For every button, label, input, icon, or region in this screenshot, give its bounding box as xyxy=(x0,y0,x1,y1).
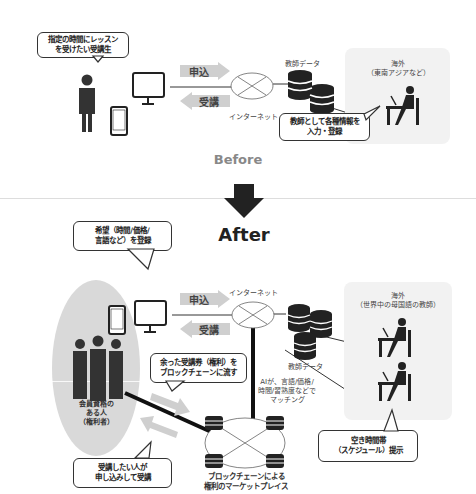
student-bubble: 指定の時間にレッスン を受けたい受講生 xyxy=(37,32,129,58)
bubble-tail-icon xyxy=(135,438,165,460)
down-arrow-icon xyxy=(224,184,264,218)
bubble-tail-icon xyxy=(93,56,103,64)
teacher-at-desk-icon xyxy=(384,86,424,126)
bubble-tail-icon xyxy=(380,410,404,432)
wish-bubble: 希望（時間/価格/ 言語など）を登録 xyxy=(73,221,172,251)
overseas-label: 海外 （東南アジアなど） xyxy=(348,60,448,78)
bubble-tail-icon xyxy=(364,106,380,120)
ai-matching-label: AIが、言語/価格/ 時間/習熟度などで マッチング xyxy=(252,378,322,405)
smartphone-icon xyxy=(110,106,128,136)
before-label: Before xyxy=(200,152,276,167)
blockchain-network-icon xyxy=(200,410,290,476)
schedule-bubble: 空き時間帯 （スケジュール）提示 xyxy=(318,430,418,462)
teacher-bubble: 教師として各種情報を 入力・登録 xyxy=(279,113,370,141)
buyer-bubble: 受講したい人が 申し込みして受講 xyxy=(73,458,172,488)
teacher-data-label: 教師データ xyxy=(282,60,322,69)
internet-label: インターネット xyxy=(228,113,278,122)
database-icon xyxy=(287,304,337,364)
monitor-icon xyxy=(132,72,166,106)
internet-cloud-icon xyxy=(231,301,275,329)
overseas-label: 海外 （世界中の母国語の教師） xyxy=(344,292,452,310)
internet-cloud-icon xyxy=(230,72,274,100)
teacher-data-label: 教師データ xyxy=(285,363,325,372)
internet-label: インターネット xyxy=(228,289,278,298)
after-label: After xyxy=(206,224,282,245)
bubble-tail-icon xyxy=(128,249,158,271)
surplus-bubble: 余った受講券（権利）を ブロックチェーンに流す xyxy=(150,353,247,383)
teacher-at-desk-icon xyxy=(376,318,416,358)
teacher-at-desk-icon xyxy=(376,362,416,402)
person-icon xyxy=(76,74,100,134)
marketplace-label: ブロックチェーンによる 権利のマーケットプレイス xyxy=(196,472,296,492)
